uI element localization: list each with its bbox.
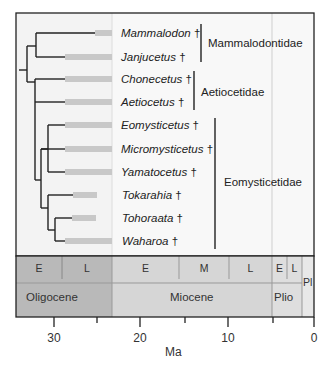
x-tick-label-30: 30 — [39, 331, 69, 345]
extinct-dagger-icon: † — [177, 212, 183, 224]
taxon-name: Aetiocetus — [121, 96, 175, 108]
epoch-label-pleistocene: Pl — [303, 276, 312, 288]
range-bar-mammalodon — [95, 30, 112, 36]
taxon-label-micromysticetus: Micromysticetus † — [121, 143, 213, 156]
range-bar-tokarahia — [73, 192, 97, 198]
extinct-dagger-icon: † — [172, 235, 178, 247]
taxon-label-janjucetus: Janjucetus † — [121, 51, 186, 64]
family-label-mammalodontidae: Mammalodontidae — [208, 37, 303, 49]
x-tick-label-0: 0 — [299, 331, 327, 345]
extinct-dagger-icon: † — [190, 166, 196, 178]
taxon-name: Eomysticetus — [121, 119, 189, 131]
taxon-name: Chonecetus — [121, 73, 182, 85]
family-label-eomysticetidae: Eomysticetidae — [224, 176, 302, 188]
subage-oligocene-late: L — [62, 262, 112, 274]
plot-area-oligocene — [16, 13, 112, 256]
extinct-dagger-icon: † — [186, 73, 192, 85]
taxon-label-aetiocetus: Aetiocetus † — [121, 96, 184, 109]
subage-pliocene-early: E — [272, 262, 287, 274]
taxon-name: Yamatocetus — [121, 166, 187, 178]
taxon-label-eomysticetus: Eomysticetus † — [121, 119, 199, 132]
range-bar-waharoa — [65, 238, 112, 244]
family-label-aetiocetidae: Aetiocetidae — [201, 86, 264, 98]
taxon-name: Waharoa — [122, 235, 168, 247]
epoch-label-pliocene: Plio — [274, 291, 293, 303]
x-tick-label-10: 10 — [213, 331, 243, 345]
range-bar-micromysticetus — [65, 146, 112, 152]
extinct-dagger-icon: † — [193, 119, 199, 131]
taxon-label-tokarahia: Tokarahia † — [122, 189, 182, 202]
taxon-label-tohoraata: Tohoraata † — [122, 212, 183, 225]
x-axis-ticks — [54, 317, 314, 327]
taxon-label-chonecetus: Chonecetus † — [121, 73, 192, 86]
phylogeny-chart: Mammalodon † Janjucetus † Chonecetus † A… — [0, 0, 327, 365]
range-bar-janjucetus — [65, 54, 112, 60]
taxon-name: Micromysticetus — [121, 143, 203, 155]
subage-oligocene-early: E — [16, 262, 62, 274]
extinct-dagger-icon: † — [178, 96, 184, 108]
epoch-label-miocene: Miocene — [170, 291, 213, 303]
epoch-label-oligocene: Oligocene — [26, 291, 78, 303]
subage-miocene-middle: M — [179, 262, 229, 274]
taxon-label-waharoa: Waharoa † — [122, 235, 178, 248]
taxon-name: Tohoraata — [122, 212, 173, 224]
range-bar-eomysticetus — [65, 122, 112, 128]
subage-miocene-early: E — [112, 262, 179, 274]
taxon-name: Mammalodon — [121, 27, 191, 39]
taxon-name: Janjucetus — [121, 51, 176, 63]
range-bar-yamatocetus — [65, 169, 112, 175]
subage-pliocene-late: L — [287, 262, 302, 274]
x-axis-title: Ma — [165, 345, 182, 359]
extinct-dagger-icon: † — [207, 143, 213, 155]
extinct-dagger-icon: † — [179, 51, 185, 63]
extinct-dagger-icon: † — [194, 27, 200, 39]
range-bar-aetiocetus — [65, 99, 112, 105]
x-tick-label-20: 20 — [125, 331, 155, 345]
taxon-name: Tokarahia — [122, 189, 172, 201]
extinct-dagger-icon: † — [175, 189, 181, 201]
range-bar-tohoraata — [72, 215, 96, 221]
taxon-label-yamatocetus: Yamatocetus † — [121, 166, 197, 179]
taxon-label-mammalodon: Mammalodon † — [121, 27, 200, 40]
range-bar-chonecetus — [65, 76, 112, 82]
subage-miocene-late: L — [229, 262, 272, 274]
